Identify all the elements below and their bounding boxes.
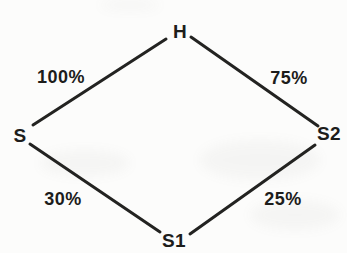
node-h: H (173, 22, 187, 41)
edge-line-s-to-s1 (30, 144, 160, 232)
edge-label-h-s2: 75% (270, 69, 308, 87)
node-s2: S2 (317, 124, 341, 143)
edge-label-s1-s2: 25% (264, 190, 302, 208)
node-s: S (13, 126, 26, 145)
node-s1: S1 (162, 231, 186, 250)
diamond-relationship-diagram: H S S2 S1 100% 75% 30% 25% (0, 0, 347, 253)
edge-label-s-s1: 30% (44, 190, 82, 208)
edge-label-s-h: 100% (37, 68, 85, 86)
